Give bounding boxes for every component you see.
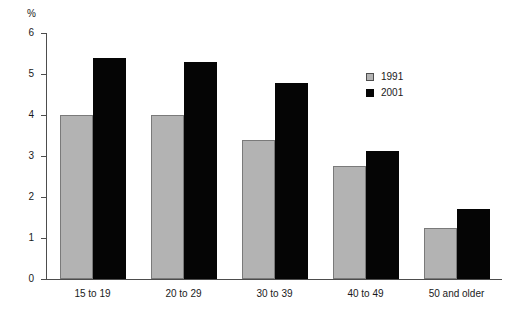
x-axis-label: 30 to 39 bbox=[229, 288, 320, 299]
x-axis-label: 20 to 29 bbox=[138, 288, 229, 299]
y-axis-tick bbox=[41, 197, 47, 198]
y-axis-tick-label: 3 bbox=[14, 151, 34, 161]
bar-2001-30-to-39 bbox=[275, 83, 308, 279]
y-axis-tick-label: 4 bbox=[14, 110, 34, 120]
bar-2001-20-to-29 bbox=[184, 62, 217, 279]
legend-item-2001: 2001 bbox=[366, 86, 403, 99]
legend-label: 2001 bbox=[381, 88, 403, 98]
bar-1991-20-to-29 bbox=[151, 115, 184, 279]
y-axis-tick-label: 5 bbox=[14, 69, 34, 79]
y-axis-tick bbox=[41, 279, 47, 280]
y-axis-tick-label: 2 bbox=[14, 192, 34, 202]
x-axis-label: 15 to 19 bbox=[47, 288, 138, 299]
legend-swatch-icon bbox=[366, 73, 374, 81]
legend-label: 1991 bbox=[381, 72, 403, 82]
bar-1991-30-to-39 bbox=[242, 140, 275, 279]
bar-2001-40-to-49 bbox=[366, 151, 399, 279]
y-axis-tick bbox=[41, 238, 47, 239]
legend-swatch-icon bbox=[366, 89, 374, 97]
y-axis-tick-label: 0 bbox=[14, 274, 34, 284]
bar-chart: % 0123456 15 to 1920 to 2930 to 3940 to … bbox=[0, 0, 508, 311]
y-axis-tick bbox=[41, 33, 47, 34]
y-axis-tick bbox=[41, 115, 47, 116]
x-axis-label: 40 to 49 bbox=[320, 288, 411, 299]
x-axis-label: 50 and older bbox=[411, 288, 502, 299]
y-axis-tick-label: 1 bbox=[14, 233, 34, 243]
legend-item-1991: 1991 bbox=[366, 70, 403, 83]
x-axis-line bbox=[46, 279, 502, 280]
y-axis-tick-label: 6 bbox=[14, 28, 34, 38]
bar-2001-15-to-19 bbox=[93, 58, 126, 279]
y-axis-tick bbox=[41, 156, 47, 157]
bar-2001-50-and-older bbox=[457, 209, 490, 279]
bar-1991-15-to-19 bbox=[60, 115, 93, 279]
bar-1991-40-to-49 bbox=[333, 166, 366, 279]
y-axis-tick bbox=[41, 74, 47, 75]
bar-1991-50-and-older bbox=[424, 228, 457, 279]
legend: 19912001 bbox=[366, 70, 403, 102]
y-axis-unit-label: % bbox=[27, 9, 36, 19]
